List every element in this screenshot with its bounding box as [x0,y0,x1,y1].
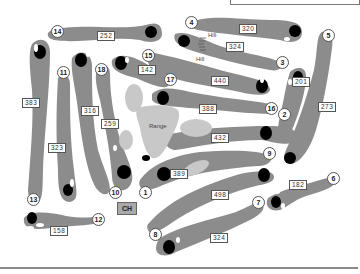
yardage-17: 440 [211,76,229,86]
hole-number-16: 16 [265,102,278,115]
yardage-16: 388 [199,104,217,114]
yardage-6: 182 [289,180,307,190]
fairway-13 [28,40,50,202]
green-3 [178,35,190,47]
range-area [136,105,179,158]
green-14 [145,26,157,38]
yardage-3: 324 [226,42,244,52]
hole-number-8: 8 [149,228,162,241]
green-1 [157,167,171,181]
hazard-e [142,155,150,161]
hole-number-15: 15 [142,49,155,62]
yardage-5: 273 [318,102,336,112]
hole-number-12: 12 [92,213,105,226]
hill-label-1: Hill [208,32,216,38]
hill-label-2: Hill [196,56,204,62]
hole-number-1: 1 [139,186,152,199]
green-12 [27,212,37,224]
hazard-b [119,130,133,150]
yardage-4: 320 [239,24,257,34]
hole-number-9: 9 [263,147,276,160]
green-15 [115,56,127,70]
yardage-15: 142 [138,65,156,75]
clubhouse-marker: CH [117,202,137,215]
green-18 [75,53,87,67]
green-8 [258,168,270,182]
hole-number-13: 13 [27,193,40,206]
yardage-12: 158 [50,226,68,236]
yardage-18: 316 [81,106,99,116]
yardage-9: 432 [211,133,229,143]
green-4 [289,25,301,37]
green-16 [157,91,169,105]
range-label: Range [149,123,167,129]
yardage-1: 389 [170,169,188,179]
green-7 [163,240,175,254]
green-9 [260,126,272,140]
yardage-10: 259 [101,119,119,129]
yardage-2: 201 [292,77,310,87]
hazard-a [125,84,143,112]
hole-number-10: 10 [109,186,122,199]
yardage-14: 252 [97,31,115,41]
bottom-border-line [0,267,358,269]
yardage-7: 324 [210,233,228,243]
hazard-c [180,119,212,137]
yardage-13: 383 [22,98,40,108]
yardage-11: 323 [48,143,66,153]
hole-number-18: 18 [95,63,108,76]
green-10 [117,165,131,179]
hole-number-11: 11 [57,66,70,79]
green-5 [284,152,296,164]
yardage-8: 498 [211,190,229,200]
hole-number-2: 2 [278,108,291,121]
hole-number-5: 5 [322,29,335,42]
hole-number-3: 3 [276,56,289,69]
hole-number-7: 7 [252,196,265,209]
hole-number-17: 17 [164,73,177,86]
green-6 [271,196,281,208]
hole-number-14: 14 [51,25,64,38]
hole-number-6: 6 [327,172,340,185]
hole-number-4: 4 [185,16,198,29]
